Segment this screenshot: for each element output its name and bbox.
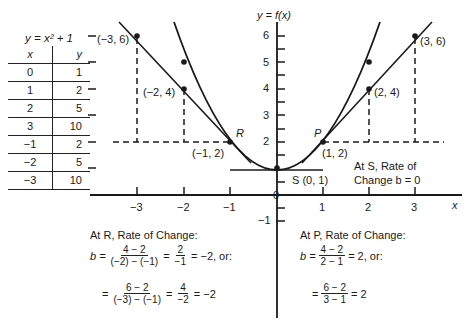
at-r-title: At R, Rate of Change: — [90, 229, 198, 241]
point-label: (−1, 2) — [192, 147, 224, 159]
fraction: 6 − 23 − 1 — [321, 282, 348, 305]
x-tick-label: 1 — [319, 201, 325, 213]
y-tick-label: 3 — [263, 109, 269, 121]
at-p-title: At P, Rate of Change: — [300, 229, 406, 241]
x-axis-label: x — [452, 199, 458, 211]
y-tick-label: −1 — [258, 214, 271, 226]
point-s-label: S (0, 1) — [292, 174, 328, 186]
y-tick-label: 4 — [263, 82, 269, 94]
point-label: (−2, 4) — [143, 86, 175, 98]
point-p-label: P — [314, 127, 321, 139]
at-r-equation-1: b = 4 − 2(−2) − (−1) = 2−1 = −2, or: — [90, 244, 232, 267]
y-tick-label: 6 — [263, 29, 269, 41]
point-r-label: R — [236, 127, 244, 139]
fraction: 4 − 2(−2) − (−1) — [109, 244, 161, 267]
y-axis-label: y = f(x) — [257, 9, 291, 21]
point-label: (−3, 6) — [97, 33, 129, 45]
at-s-note-line1: At S, Rate of — [354, 160, 416, 172]
fraction: 4 − 22 − 1 — [319, 244, 346, 267]
y-tick-label: 5 — [263, 56, 269, 68]
x-tick-label: −2 — [177, 201, 190, 213]
fraction: 6 − 2(−3) − (−1) — [111, 282, 163, 305]
y-tick-label: 2 — [263, 135, 269, 147]
point-label: (1, 2) — [322, 147, 348, 159]
at-s-note-line2: Change b = 0 — [354, 174, 420, 186]
fraction: 4−2 — [175, 282, 190, 305]
fraction: 2−1 — [173, 244, 188, 267]
x-tick-label: 0 — [273, 189, 279, 201]
left-y-ticks — [88, 36, 96, 168]
point-label: (2, 4) — [374, 86, 400, 98]
at-p-equation-1: b = 4 − 22 − 1 = 2, or: — [300, 244, 383, 267]
at-p-equation-2: = 6 − 23 − 1 = 2 — [312, 282, 367, 305]
x-tick-label: 2 — [365, 201, 371, 213]
at-r-equation-2: = 6 − 2(−3) − (−1) = 4−2 = −2 — [102, 282, 216, 305]
x-tick-label: 3 — [411, 201, 417, 213]
data-points — [134, 33, 418, 171]
point-label: (3, 6) — [420, 35, 446, 47]
x-tick-label: −1 — [223, 201, 236, 213]
x-tick-label: −3 — [130, 201, 143, 213]
